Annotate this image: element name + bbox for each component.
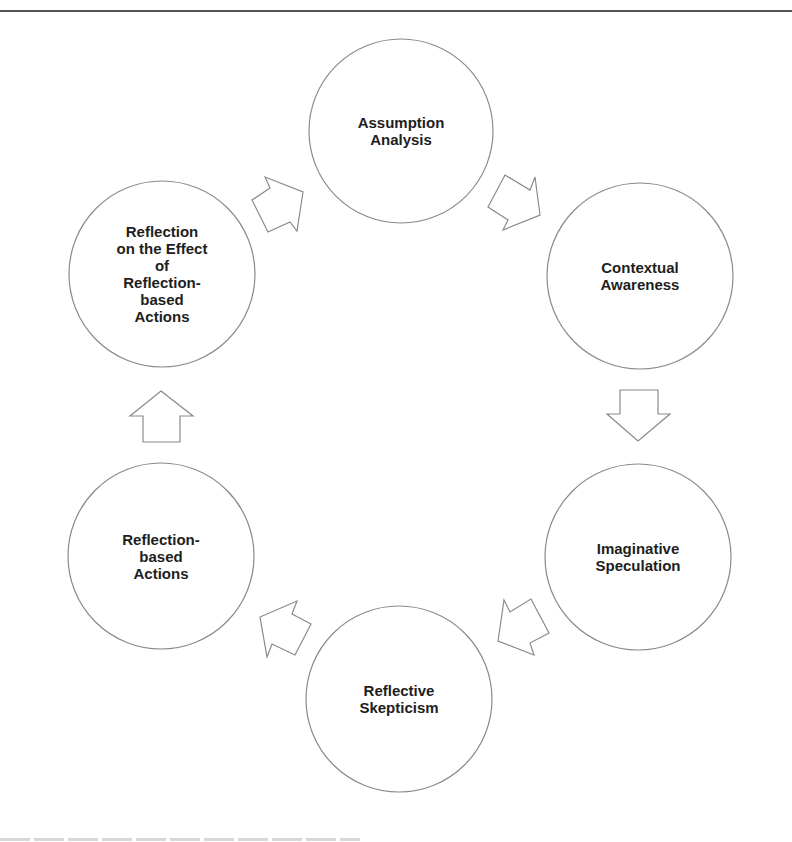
arrow-down-icon xyxy=(607,390,670,441)
node-label-reflection-on-effect: Reflection on the Effect of Reflection- … xyxy=(77,223,247,325)
arrow-down-left-icon xyxy=(498,599,549,655)
cut-off-caption xyxy=(0,838,360,841)
node-label-reflective-skepticism: Reflective Skepticism xyxy=(314,682,484,716)
node-label-imaginative-speculation: Imaginative Speculation xyxy=(553,540,723,574)
arrow-up-right-icon xyxy=(252,177,303,232)
node-label-contextual-awareness: Contextual Awareness xyxy=(555,259,725,293)
arrow-up-icon xyxy=(130,391,193,442)
arrow-up-left-icon xyxy=(260,601,311,657)
node-label-reflection-based-actions: Reflection- based Actions xyxy=(76,531,246,582)
arrow-down-right-icon xyxy=(488,175,540,230)
node-label-assumption-analysis: Assumption Analysis xyxy=(316,114,486,148)
